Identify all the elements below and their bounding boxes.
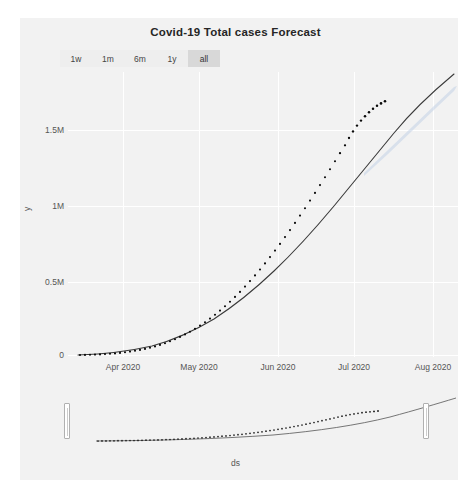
range-slider-preview bbox=[68, 395, 458, 447]
x-tick-aug2020: Aug 2020 bbox=[415, 362, 451, 372]
x-tick-apr2020: Apr 2020 bbox=[106, 362, 141, 372]
x-axis-title: ds bbox=[0, 458, 471, 468]
range-button-6m[interactable]: 6m bbox=[124, 50, 156, 67]
plot-area[interactable] bbox=[68, 72, 458, 357]
range-button-1y[interactable]: 1y bbox=[156, 50, 188, 67]
plot-series-svg bbox=[68, 72, 458, 357]
x-tick-jul2020: Jul 2020 bbox=[338, 362, 370, 372]
range-selector[interactable]: 1w 1m 6m 1y all bbox=[60, 50, 220, 67]
range-slider-left-handle[interactable] bbox=[64, 403, 70, 439]
y-tick-1500k: 1.5M bbox=[20, 125, 64, 135]
x-tick-jun2020: Jun 2020 bbox=[261, 362, 296, 372]
range-slider-forecast-line bbox=[96, 398, 456, 441]
y-tick-500k: 0.5M bbox=[20, 277, 64, 287]
y-tick-zero: 0 bbox=[20, 350, 64, 360]
uncertainty-band bbox=[364, 86, 457, 176]
range-button-all[interactable]: all bbox=[188, 50, 220, 67]
range-slider-right-handle[interactable] bbox=[423, 403, 429, 439]
forecast-line bbox=[78, 74, 454, 355]
chart-container: Covid-19 Total cases Forecast 1w 1m 6m 1… bbox=[0, 0, 471, 501]
range-slider[interactable] bbox=[68, 395, 458, 447]
range-button-1m[interactable]: 1m bbox=[92, 50, 124, 67]
y-axis-title: y bbox=[22, 207, 32, 211]
observed-points bbox=[79, 100, 386, 356]
left-handle-grip bbox=[67, 408, 68, 436]
range-button-1w[interactable]: 1w bbox=[60, 50, 92, 67]
y-axis-ticks: 1.5M 1M 0.5M 0 bbox=[14, 72, 64, 357]
right-handle-grip bbox=[426, 408, 427, 436]
chart-title: Covid-19 Total cases Forecast bbox=[0, 26, 471, 38]
x-tick-may2020: May 2020 bbox=[180, 362, 217, 372]
x-axis-ticks: Apr 2020 May 2020 Jun 2020 Jul 2020 Aug … bbox=[68, 362, 458, 376]
